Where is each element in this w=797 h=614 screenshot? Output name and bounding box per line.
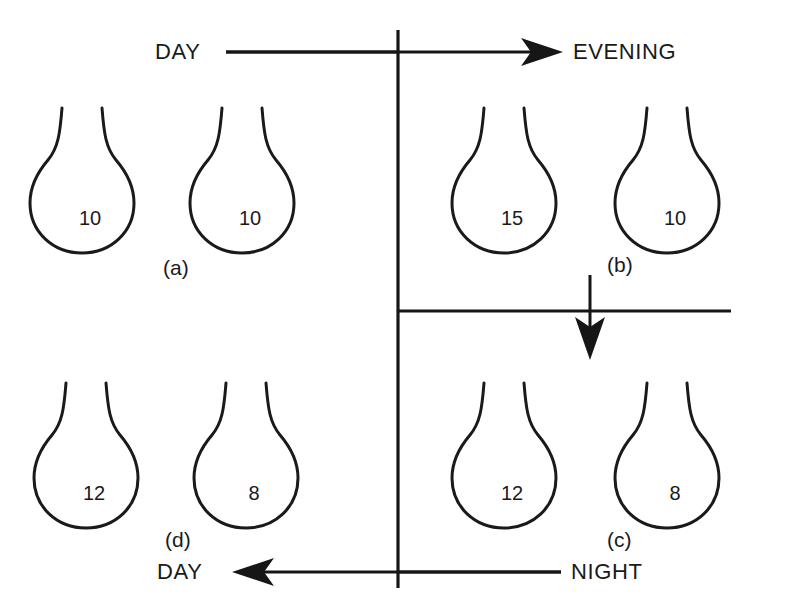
flask-b-2 <box>615 108 719 253</box>
direction-label-night: NIGHT <box>571 561 642 583</box>
stage-label-d: (d) <box>165 529 191 550</box>
flask-value-a-2: 10 <box>239 208 261 228</box>
flask-b-1 <box>452 108 556 253</box>
flask-value-c-1: 12 <box>501 483 523 503</box>
flask-value-b-1: 15 <box>501 208 523 228</box>
flask-value-d-1: 12 <box>83 483 105 503</box>
middle-arrow <box>575 275 605 360</box>
flask-c-2 <box>615 383 719 528</box>
flask-value-a-1: 10 <box>79 208 101 228</box>
flask-value-d-2: 8 <box>248 483 259 503</box>
direction-label-day-bottom: DAY <box>157 561 202 583</box>
flask-a-2 <box>190 108 294 253</box>
flask-value-c-2: 8 <box>669 483 680 503</box>
flask-d-2 <box>194 383 298 528</box>
diagram-graphics <box>0 0 797 614</box>
flask-value-b-2: 10 <box>664 208 686 228</box>
direction-label-evening: EVENING <box>573 41 676 63</box>
top-arrow <box>226 38 563 66</box>
stage-label-a: (a) <box>163 257 189 278</box>
direction-label-day-top: DAY <box>155 41 200 63</box>
diagram-canvas: DAY EVENING NIGHT DAY (a) (b) (c) (d) 10… <box>0 0 797 614</box>
stage-label-b: (b) <box>607 254 633 275</box>
stage-label-c: (c) <box>607 529 632 550</box>
flask-a-1 <box>30 108 134 253</box>
flask-c-1 <box>452 383 556 528</box>
flask-d-1 <box>34 383 138 528</box>
